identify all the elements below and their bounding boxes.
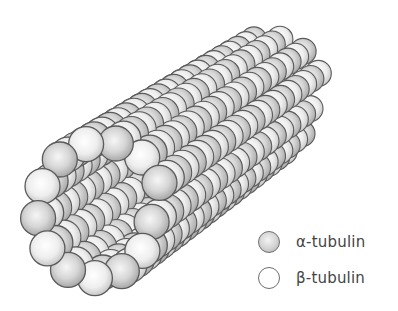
legend-item-beta-tubulin: β-tubulin [258,266,365,290]
microtubule-diagram [0,0,398,311]
legend-label-beta: β-tubulin [296,269,365,287]
alpha-tubulin-sphere-icon [258,231,280,253]
legend-label-alpha: α-tubulin [296,233,365,251]
beta-tubulin-sphere-icon [258,267,280,289]
beta-tubulin-subunit [30,231,65,266]
microtubule-cylinder [21,26,332,295]
alpha-tubulin-subunit [142,165,177,200]
legend-item-alpha-tubulin: α-tubulin [258,230,365,254]
beta-tubulin-subunit [25,169,60,204]
